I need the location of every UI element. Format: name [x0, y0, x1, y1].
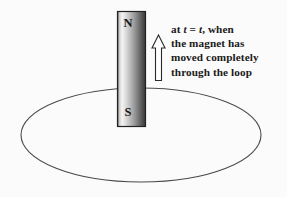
caption-equals: =: [187, 23, 199, 35]
caption-line-4: through the loop: [171, 65, 283, 79]
caption-prefix: at: [171, 23, 183, 35]
magnet-north-label: N: [123, 16, 132, 30]
caption-line-3: moved completely: [171, 50, 283, 64]
magnet-south-label: S: [125, 105, 132, 119]
up-arrow-icon: [152, 35, 165, 81]
bar-magnet: N S: [118, 12, 146, 127]
caption-block: at t = t, when the magnet has moved comp…: [171, 22, 283, 79]
caption-line-2: the magnet has: [171, 36, 283, 50]
caption-line-1: at t = t, when: [171, 22, 283, 36]
caption-suffix: , when: [202, 23, 234, 35]
